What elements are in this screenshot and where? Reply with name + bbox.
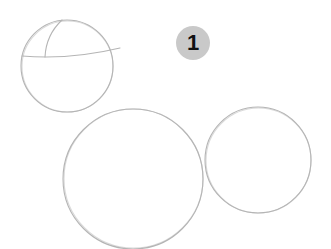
step-number-badge: 1 xyxy=(176,26,210,60)
step-number: 1 xyxy=(187,30,199,56)
pencil-sketch xyxy=(0,0,331,249)
horizontal-guideline xyxy=(22,48,120,57)
